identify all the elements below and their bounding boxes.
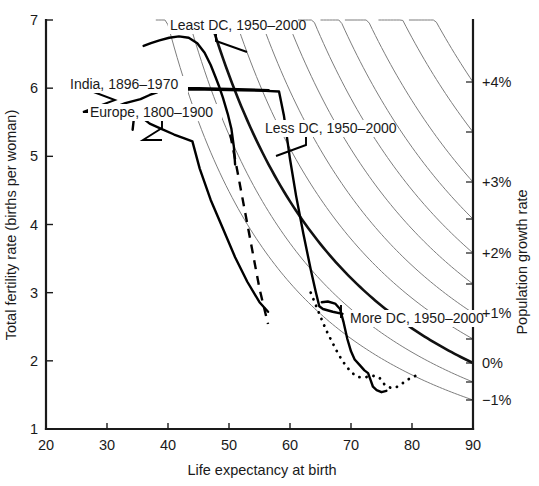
x-axis-title: Life expectancy at birth [187, 462, 336, 478]
annotation-india-text: India, 1896–1970 [70, 76, 178, 92]
y-tick-label-2: 2 [30, 353, 38, 369]
x-tick-label-20: 20 [38, 437, 54, 453]
isoline-7 [220, 20, 473, 339]
annotation-europe: Europe, 1800–1900 [88, 104, 222, 121]
series-line-more-dc-projection [311, 293, 416, 388]
y-axis-title: Total fertility rate (births per woman) [3, 110, 19, 340]
y-tick-labels: 7 6 5 4 3 2 1 [30, 12, 38, 437]
y-tick-label-1: 1 [30, 421, 38, 437]
series-line-europe [133, 119, 268, 312]
annotation-more-dc: More DC, 1950–2000 [348, 310, 484, 327]
y-tick-label-7: 7 [30, 12, 38, 28]
x-tick-label-40: 40 [160, 437, 176, 453]
right-tick-label-minus1: −1% [482, 392, 512, 408]
right-tick-label-plus2: +2% [482, 245, 512, 261]
right-tick-label-plus4: +4% [482, 74, 512, 90]
y-tick-label-3: 3 [30, 285, 38, 301]
isoline-group [156, 20, 473, 400]
isoline-2 [345, 20, 473, 182]
series-annotations: Least DC, 1950–2000 Less DC, 1950–2000 I… [68, 17, 484, 327]
right-tick-labels: +4% +3% +2% +1% 0% −1% [482, 74, 512, 408]
x-tick-label-30: 30 [99, 437, 115, 453]
leader-line-group [83, 29, 341, 318]
y-tick-label-4: 4 [30, 217, 38, 233]
x-tick-label-70: 70 [343, 437, 359, 453]
annotation-least-dc: Least DC, 1950–2000 [168, 17, 306, 34]
x-tick-label-90: 90 [465, 437, 481, 453]
annotation-more-dc-text: More DC, 1950–2000 [350, 310, 484, 326]
x-tick-label-60: 60 [282, 437, 298, 453]
y-tick-label-6: 6 [30, 80, 38, 96]
chart-figure: 20 30 40 50 60 70 80 90 7 6 5 4 3 2 1 +4… [0, 0, 539, 486]
annotation-least-dc-text: Least DC, 1950–2000 [170, 17, 306, 33]
isoline-0 [409, 20, 473, 82]
annotation-europe-text: Europe, 1800–1900 [90, 104, 213, 120]
isoline-1 [378, 20, 473, 132]
right-tick-label-plus1: +1% [482, 305, 512, 321]
y-axis-title-right: Population growth rate [514, 189, 530, 334]
right-tick-label-plus3: +3% [482, 174, 512, 190]
isoline-9 [177, 20, 473, 382]
isoline-10 [156, 20, 473, 400]
x-tick-label-80: 80 [404, 437, 420, 453]
y-tick-label-5: 5 [30, 148, 38, 164]
demographic-transition-chart: 20 30 40 50 60 70 80 90 7 6 5 4 3 2 1 +4… [0, 0, 539, 486]
annotation-less-dc: Less DC, 1950–2000 [263, 120, 397, 137]
x-tick-labels: 20 30 40 50 60 70 80 90 [38, 437, 481, 453]
annotation-india: India, 1896–1970 [68, 76, 188, 93]
right-tick-label-zero: 0% [482, 355, 503, 371]
annotation-less-dc-text: Less DC, 1950–2000 [265, 120, 397, 136]
isoline-5 [269, 20, 473, 284]
x-tick-label-50: 50 [221, 437, 237, 453]
